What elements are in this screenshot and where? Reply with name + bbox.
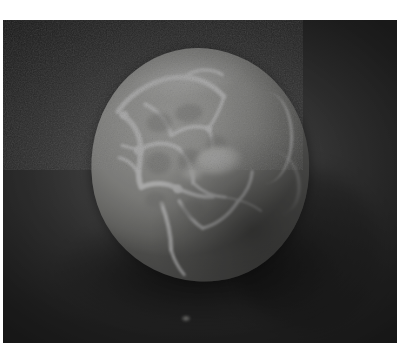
figure-root	[0, 0, 413, 343]
grayscale-photograph	[3, 20, 397, 343]
photo-vignette	[3, 20, 397, 343]
